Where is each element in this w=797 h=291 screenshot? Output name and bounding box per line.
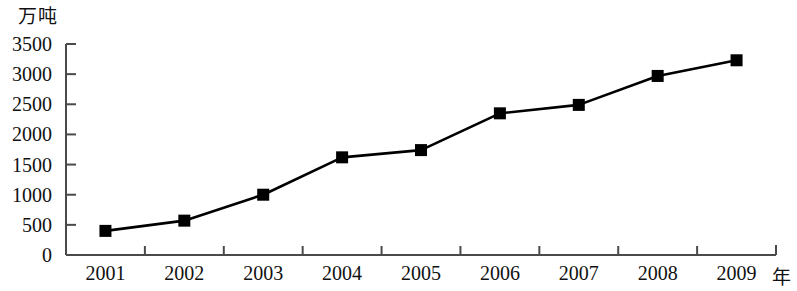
data-point-marker: 2001: 400: [99, 225, 111, 237]
x-axis-unit-label: 年: [772, 262, 791, 289]
data-point-marker: 2009: 3230: [731, 54, 743, 66]
x-axis-tick-label: 2005: [401, 262, 441, 285]
data-point-marker: 2002: 570: [178, 215, 190, 227]
data-point-marker: 2008: 2970: [652, 70, 664, 82]
y-axis-ticks: [66, 44, 76, 225]
x-axis-tick-label: 2002: [164, 262, 204, 285]
x-axis-tick-label: 2001: [85, 262, 125, 285]
data-point-marker: 2005: 1740: [415, 144, 427, 156]
x-axis-tick-label: 2006: [480, 262, 520, 285]
line-chart: 万吨 0500100015002000250030003500 2001: 40…: [0, 0, 797, 291]
data-point-marker: 2003: 1000: [257, 189, 269, 201]
x-axis-tick-label: 2009: [717, 262, 757, 285]
x-axis-tick-label: 2008: [638, 262, 678, 285]
series-markers: 2001: 4002002: 5702003: 10002004: 162020…: [99, 54, 742, 237]
plot-area: 2001: 4002002: 5702003: 10002004: 162020…: [0, 0, 797, 291]
x-axis-tick-label: 2003: [243, 262, 283, 285]
x-axis-tick-label: 2004: [322, 262, 362, 285]
x-axis-tick-label: 2007: [559, 262, 599, 285]
data-point-marker: 2007: 2490: [573, 99, 585, 111]
data-point-marker: 2006: 2350: [494, 107, 506, 119]
data-point-marker: 2004: 1620: [336, 151, 348, 163]
x-axis-ticks: [145, 246, 697, 255]
